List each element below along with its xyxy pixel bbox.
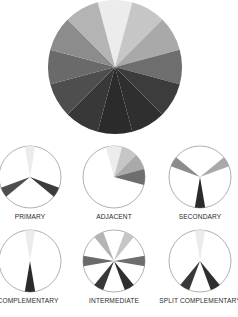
- label-intermediate: INTERMEDIATE: [89, 297, 139, 304]
- label-secondary: SECONDARY: [179, 213, 222, 220]
- label-split-complementary: SPLIT COMPLEMENTARY: [159, 297, 238, 304]
- label-adjacent: ADJACENT: [96, 213, 132, 220]
- main-color-wheel: [48, 0, 182, 134]
- scheme-wheel-primary: [0, 146, 61, 208]
- color-wheel-diagram: PRIMARY ADJACENT SECONDARY COMPLEMENTARY…: [0, 0, 238, 317]
- label-primary: PRIMARY: [15, 213, 46, 220]
- label-complementary: COMPLEMENTARY: [0, 297, 59, 304]
- scheme-wheel-intermediate: [83, 230, 145, 292]
- scheme-wheel-split-complementary: [169, 230, 231, 292]
- scheme-wheel-adjacent: [83, 146, 145, 208]
- scheme-wheel-secondary: [169, 146, 231, 208]
- scheme-wheel-complementary: [0, 230, 61, 292]
